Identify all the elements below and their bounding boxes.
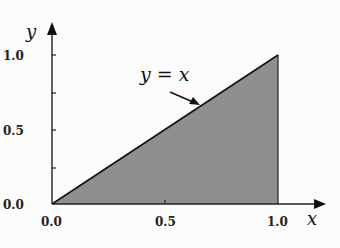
annotation-y-equals-x: y = x	[139, 63, 190, 85]
xtick-label-1.0: 1.0	[267, 215, 288, 229]
xtick-label-0.0: 0.0	[41, 215, 62, 229]
ytick-label-0.0: 0.0	[3, 198, 24, 212]
ytick-label-1.0: 1.0	[3, 49, 24, 63]
x-axis-label: x	[307, 208, 317, 229]
xtick-label-0.5: 0.5	[155, 215, 176, 229]
y-axis-arrow-icon	[47, 22, 57, 35]
annotation-arrow-shaft	[170, 92, 193, 102]
ytick-label-0.5: 0.5	[3, 124, 24, 138]
y-axis-label: y	[25, 21, 37, 42]
chart: 1.0 0.5 0.0 0.0 0.5 1.0 y x y = x	[0, 0, 340, 248]
